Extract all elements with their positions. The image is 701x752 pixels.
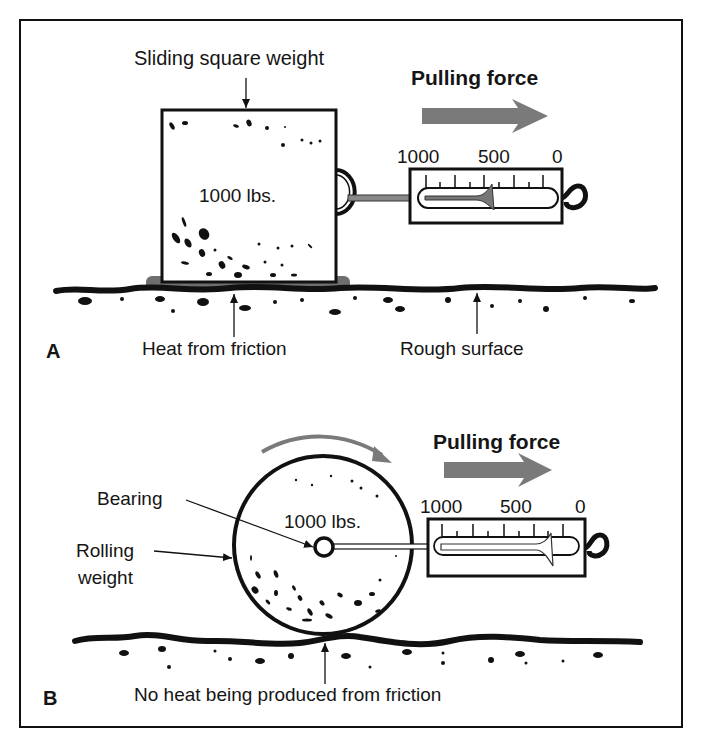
scale-b-tick-1000: 1000 bbox=[420, 497, 462, 516]
scale-a-tick-500: 500 bbox=[478, 147, 510, 166]
block-attachment-loop bbox=[336, 170, 355, 214]
panel-letter-a: A bbox=[46, 341, 60, 361]
label-pulling-force-b: Pulling force bbox=[433, 431, 560, 452]
label-weight-value-a: 1000 lbs. bbox=[199, 186, 276, 205]
scale-b-tick-0: 0 bbox=[575, 497, 586, 516]
label-pulling-force-a: Pulling force bbox=[411, 67, 538, 88]
panel-a-illustration bbox=[56, 78, 655, 337]
label-weight-value-b: 1000 lbs. bbox=[284, 512, 361, 531]
label-weight: weight bbox=[78, 568, 133, 587]
pull-rod-a bbox=[348, 195, 410, 201]
label-bearing: Bearing bbox=[97, 489, 163, 508]
spring-scale-b bbox=[428, 519, 607, 576]
panel-letter-b: B bbox=[43, 688, 57, 708]
rough-surface-line-a bbox=[56, 287, 655, 291]
label-no-heat-friction: No heat being produced from friction bbox=[134, 685, 441, 704]
rotation-arrow bbox=[262, 437, 382, 455]
label-rough-surface: Rough surface bbox=[400, 339, 524, 358]
scale-a-tick-1000: 1000 bbox=[397, 147, 439, 166]
surface-pebbles-b bbox=[119, 646, 603, 669]
label-sliding-square-weight: Sliding square weight bbox=[134, 48, 324, 68]
friction-illustration bbox=[0, 0, 701, 752]
bearing bbox=[315, 538, 333, 556]
arrow-rolling-weight bbox=[154, 551, 232, 558]
panel-b-illustration bbox=[75, 437, 640, 684]
rough-surface-line-b bbox=[75, 635, 640, 644]
pull-rod-b bbox=[325, 544, 430, 549]
label-rolling: Rolling bbox=[76, 541, 134, 560]
pulling-force-arrow-b bbox=[444, 453, 552, 487]
surface-pebbles-a bbox=[78, 296, 635, 315]
spring-scale-a bbox=[410, 169, 585, 223]
pulling-force-arrow-a bbox=[422, 99, 548, 133]
scale-b-tick-500: 500 bbox=[500, 497, 532, 516]
label-heat-from-friction: Heat from friction bbox=[142, 339, 287, 358]
scale-a-tick-0: 0 bbox=[552, 147, 563, 166]
